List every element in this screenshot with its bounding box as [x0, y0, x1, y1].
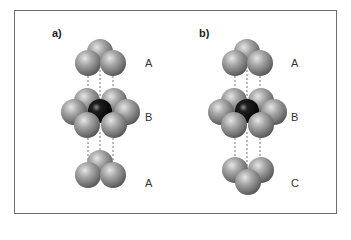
sphere-icon [100, 50, 126, 76]
sphere-icon [75, 162, 101, 188]
sphere-icon [221, 112, 247, 138]
sphere-icon [75, 50, 101, 76]
layer-label-b: B [145, 111, 152, 123]
layer-label-a-top: A [145, 57, 152, 69]
sphere-icon [100, 162, 126, 188]
layer-label-a-bottom: A [145, 177, 152, 189]
layer-label-c-bottom: C [291, 177, 299, 189]
layer-c-bottom [222, 157, 274, 195]
panel-label-b: b) [199, 27, 209, 39]
layer-label-a-top: A [291, 57, 298, 69]
layer-label-b: B [291, 111, 298, 123]
panel-b [208, 39, 287, 195]
layer-a-bottom [75, 150, 126, 188]
sphere-icon [101, 112, 127, 138]
sphere-icon [235, 169, 261, 195]
panel-a [61, 39, 140, 188]
sphere-icon [247, 50, 273, 76]
sphere-icon [248, 112, 274, 138]
sphere-icon [74, 112, 100, 138]
sphere-icon [222, 50, 248, 76]
panel-label-a: a) [52, 27, 62, 39]
